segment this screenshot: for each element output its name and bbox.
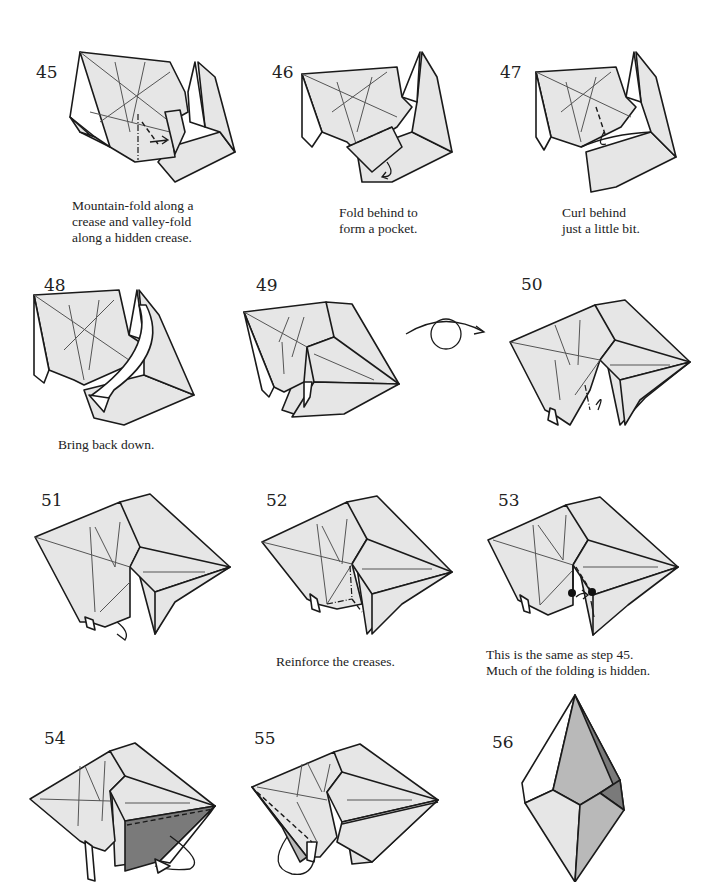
step-number-49: 49 xyxy=(256,275,278,295)
caption-step-45: Mountain-fold along a crease and valley-… xyxy=(72,198,193,246)
diagram-step-54 xyxy=(30,741,220,881)
diagram-step-51 xyxy=(35,492,230,640)
caption-step-46: Fold behind to form a pocket. xyxy=(339,205,418,237)
bleed-through-text xyxy=(0,0,712,8)
turn-over-arrow-icon xyxy=(404,312,489,362)
caption-step-47: Curl behind just a little bit. xyxy=(562,205,640,237)
diagram-step-53 xyxy=(488,495,683,635)
step-number-50: 50 xyxy=(521,274,543,294)
diagram-step-49 xyxy=(244,302,404,422)
diagram-step-45 xyxy=(70,52,250,192)
step-number-45: 45 xyxy=(36,62,58,82)
diagram-step-48 xyxy=(34,290,194,430)
diagram-step-56-finished-model xyxy=(520,695,630,882)
step-number-46: 46 xyxy=(272,62,294,82)
caption-step-48: Bring back down. xyxy=(58,437,154,453)
caption-step-53: This is the same as step 45. Much of the… xyxy=(486,647,650,679)
diagram-step-50 xyxy=(510,300,695,430)
diagram-step-47 xyxy=(536,52,696,197)
caption-step-52: Reinforce the creases. xyxy=(276,654,395,670)
step-number-56: 56 xyxy=(492,732,514,752)
diagram-step-46 xyxy=(302,52,462,192)
step-number-47: 47 xyxy=(500,62,522,82)
diagram-step-52 xyxy=(262,494,457,634)
diagram-step-55 xyxy=(252,742,442,882)
